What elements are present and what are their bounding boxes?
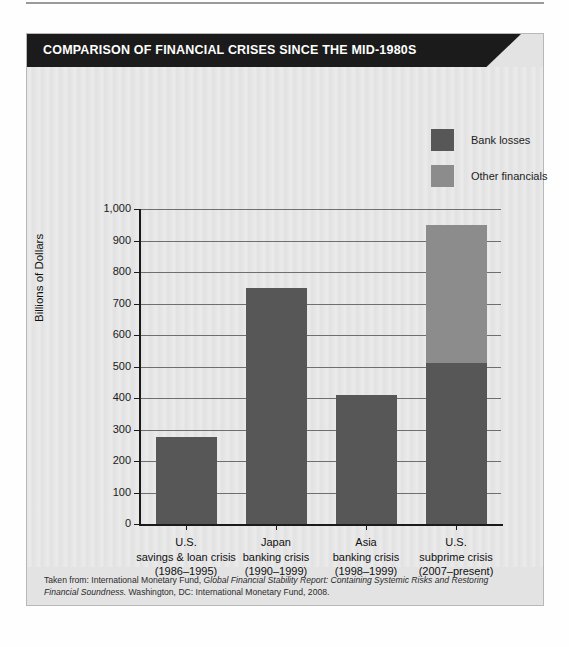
legend-swatch-other-financials [431,165,454,187]
y-axis-tick-label: 1,000 [69,202,131,214]
footnote-prefix: Taken from: International Monetary Fund, [44,575,204,585]
x-axis-label-line: U.S. [381,535,531,550]
x-axis-tick-mark [366,524,367,530]
y-axis-tick-label: 400 [69,391,131,403]
bar-segment-other-financials[interactable] [426,225,487,364]
y-axis-tick-mark [134,209,139,210]
y-axis-tick-mark [134,524,139,525]
x-axis-label-line: subprime crisis [381,550,531,565]
bar-4[interactable] [426,209,487,524]
legend-item-bank-losses: Bank losses [431,129,547,151]
bar-1[interactable] [156,209,217,524]
y-axis-tick-label: 700 [69,297,131,309]
y-axis-tick-mark [134,272,139,273]
footnote-publisher: Washington, DC: International Monetary F… [129,587,330,597]
y-axis-tick-label: 200 [69,454,131,466]
x-axis-tick-mark [276,524,277,530]
x-axis-line [139,524,503,526]
bar-segment-bank-losses[interactable] [246,288,307,524]
bar-segment-bank-losses[interactable] [156,437,217,524]
x-axis-label-4: U.S.subprime crisis(2007–present) [381,535,531,579]
figure-title: COMPARISON OF FINANCIAL CRISES SINCE THE… [43,43,416,57]
y-axis-tick-label: 900 [69,234,131,246]
y-axis-tick-mark [134,367,139,368]
figure-container: COMPARISON OF FINANCIAL CRISES SINCE THE… [26,33,544,606]
y-axis-tick-label: 100 [69,486,131,498]
y-axis-tick-mark [134,335,139,336]
legend-label-bank-losses: Bank losses [471,134,530,146]
bar-3[interactable] [336,209,397,524]
x-axis-tick-mark [186,524,187,530]
bar-segment-bank-losses[interactable] [336,395,397,524]
y-axis-tick-mark [134,430,139,431]
plot-area: 01002003004005006007008009001,000 U.S.sa… [139,209,501,524]
x-axis-tick-mark [456,524,457,530]
y-axis-tick-label: 800 [69,265,131,277]
y-axis-tick-label: 300 [69,423,131,435]
y-axis-tick-label: 0 [69,517,131,529]
y-axis-tick-mark [134,398,139,399]
y-axis-line [139,209,141,526]
y-axis-tick-label: 500 [69,360,131,372]
figure-source-note: Taken from: International Monetary Fund,… [44,574,524,598]
y-axis-tick-label: 600 [69,328,131,340]
page-top-rule [26,2,544,4]
legend-item-other-financials: Other financials [431,165,547,187]
y-axis-tick-mark [134,493,139,494]
y-axis-title: Billions of Dollars [33,234,45,322]
chart-legend: Bank losses Other financials [431,129,547,201]
bar-segment-bank-losses[interactable] [426,363,487,524]
y-axis-tick-mark [134,241,139,242]
y-axis-tick-mark [134,304,139,305]
bar-2[interactable] [246,209,307,524]
y-axis-tick-mark [134,461,139,462]
plot-surface: Bank losses Other financials Billions of… [27,67,543,567]
legend-label-other-financials: Other financials [471,170,547,182]
figure-page: COMPARISON OF FINANCIAL CRISES SINCE THE… [0,0,569,647]
legend-swatch-bank-losses [431,129,454,151]
